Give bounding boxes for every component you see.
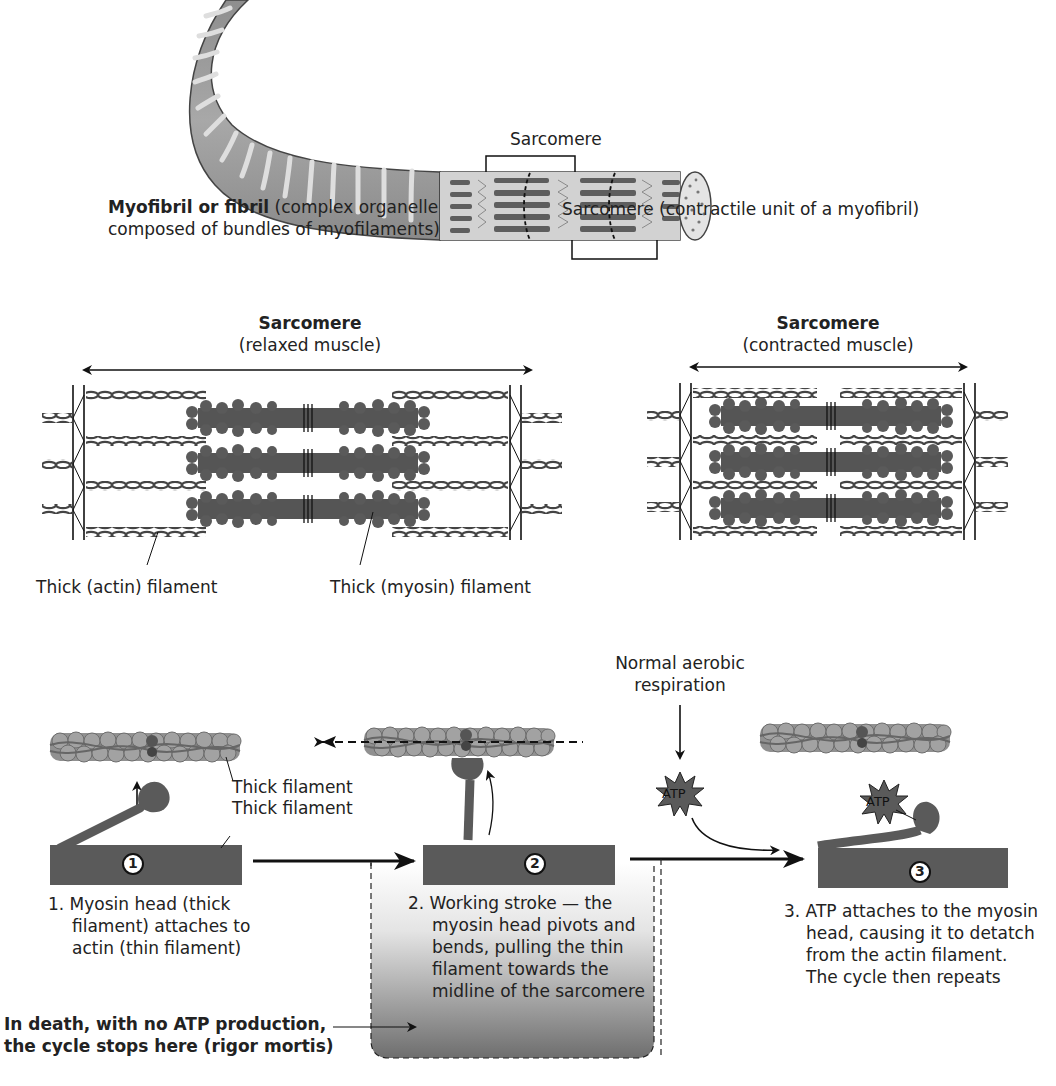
contracted-title: Sarcomere bbox=[688, 312, 968, 334]
respiration-label: Normal aerobic respiration bbox=[600, 652, 760, 696]
step1-thick-filament-label: Thick filament bbox=[232, 798, 353, 819]
relaxed-sarcomere-illustration bbox=[42, 370, 562, 565]
atp-label-free: ATP bbox=[662, 786, 686, 801]
sarcomere-top-label: Sarcomere bbox=[510, 128, 602, 150]
relaxed-subtitle: (relaxed muscle) bbox=[170, 334, 450, 356]
step2-line4: filament towards the bbox=[408, 958, 645, 980]
step3-line3: from the actin filament. bbox=[784, 944, 1038, 966]
step2-badge: 2 bbox=[530, 855, 540, 871]
step1-description: 1. Myosin head (thick filament) attaches… bbox=[48, 893, 250, 959]
rigor-mortis-line1: In death, with no ATP production, bbox=[4, 1013, 334, 1035]
respiration-label-line1: Normal aerobic bbox=[600, 652, 760, 674]
myosin-filament-label: Thick (myosin) filament bbox=[330, 576, 531, 598]
step2-line3: bends, pulling the thin bbox=[408, 936, 645, 958]
actin-filament-label: Thick (actin) filament bbox=[36, 576, 217, 598]
step3-line4: The cycle then repeats bbox=[784, 966, 1038, 988]
rigor-mortis-note: In death, with no ATP production, the cy… bbox=[4, 1013, 334, 1057]
contracted-sarcomere-illustration bbox=[647, 367, 1008, 540]
atp-label-attached: ATP bbox=[866, 794, 890, 809]
step3-badge: 3 bbox=[915, 863, 925, 879]
step2-line1: 2. Working stroke — the bbox=[408, 892, 645, 914]
step1-thin-filament-label: Thick filament bbox=[232, 777, 353, 798]
step2-line5: midline of the sarcomere bbox=[408, 980, 645, 1002]
step1-badge: 1 bbox=[128, 855, 138, 871]
step1-line2: filament) attaches to bbox=[48, 915, 250, 937]
step2-description: 2. Working stroke — the myosin head pivo… bbox=[408, 892, 645, 1002]
step2-line2: myosin head pivots and bbox=[408, 914, 645, 936]
step3-description: 3. ATP attaches to the myosin head, caus… bbox=[784, 900, 1038, 988]
relaxed-heading: Sarcomere (relaxed muscle) bbox=[170, 312, 450, 356]
myofibril-caption: Myofibril or fibril (complex organelle c… bbox=[108, 196, 440, 240]
myofibril-title: Myofibril or fibril bbox=[108, 197, 269, 217]
step1-filament-labels: Thick filament Thick filament bbox=[232, 777, 353, 819]
contracted-subtitle: (contracted muscle) bbox=[688, 334, 968, 356]
step1-line1: 1. Myosin head (thick bbox=[48, 893, 250, 915]
step1-line3: actin (thin filament) bbox=[48, 937, 250, 959]
myofibril-desc-1: (complex organelle bbox=[269, 197, 438, 217]
respiration-label-line2: respiration bbox=[600, 674, 760, 696]
step3-line2: head, causing it to detatch bbox=[784, 922, 1038, 944]
step3-line1: 3. ATP attaches to the myosin bbox=[784, 900, 1038, 922]
relaxed-title: Sarcomere bbox=[170, 312, 450, 334]
contracted-heading: Sarcomere (contracted muscle) bbox=[688, 312, 968, 356]
rigor-mortis-line2: the cycle stops here (rigor mortis) bbox=[4, 1035, 334, 1057]
step1-illustration bbox=[50, 732, 242, 885]
myofibril-desc-2: composed of bundles of myofilaments) bbox=[108, 219, 440, 239]
sarcomere-bottom-label: Sarcomere (contractile unit of a myofibr… bbox=[562, 198, 919, 220]
